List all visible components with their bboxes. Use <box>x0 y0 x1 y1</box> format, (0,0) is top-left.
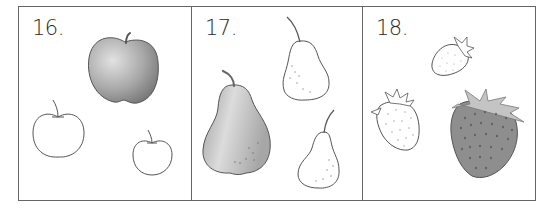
strawberry-outline-small <box>432 37 474 75</box>
pear-outline-medium <box>283 17 329 100</box>
pear-shaded-large <box>203 71 270 175</box>
apple-outline-small <box>133 130 172 175</box>
strawberry-shaded-large <box>451 89 524 178</box>
apple-outline-medium <box>33 100 84 157</box>
strawberry-outline-medium <box>371 89 419 150</box>
pear-outline-small <box>298 110 339 188</box>
apple-shaded-large <box>88 33 158 103</box>
